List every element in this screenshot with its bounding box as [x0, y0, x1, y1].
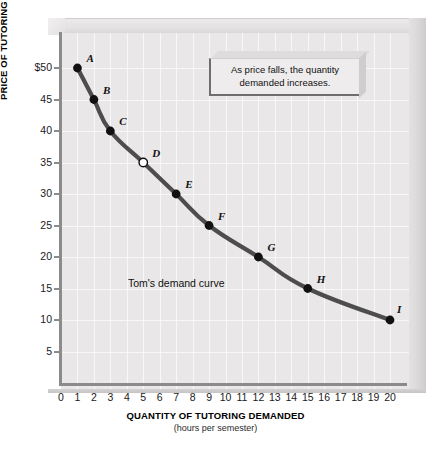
y-axis-title-sub: (dollars per hour): [0, 0, 9, 1]
y-tick-label: 45: [12, 93, 52, 105]
y-tick-mark: [54, 351, 59, 353]
y-tick-label: 20: [12, 250, 52, 262]
frame-top-bevel: [48, 18, 426, 34]
y-tick-mark: [54, 225, 59, 227]
y-tick-label: 35: [12, 156, 52, 168]
y-tick-label: 5: [12, 345, 52, 357]
frame-right-bevel: [409, 18, 426, 393]
gridline-vertical: [390, 33, 391, 389]
y-tick-mark: [54, 99, 59, 101]
y-tick-mark: [54, 288, 59, 290]
gridline-horizontal: [61, 320, 409, 321]
point-label-a: A: [86, 52, 93, 64]
gridline-vertical: [160, 33, 161, 389]
y-tick-mark: [54, 67, 59, 69]
gridline-vertical: [193, 33, 194, 389]
point-label-h: H: [317, 273, 326, 285]
callout-top-bevel: [212, 51, 370, 58]
point-label-b: B: [103, 84, 110, 96]
y-tick-mark: [54, 130, 59, 132]
y-tick-mark: [54, 193, 59, 195]
x-axis-title: QUANTITY OF TUTORING DEMANDED: [0, 410, 431, 421]
frame-top-edge: [48, 18, 426, 19]
y-tick-mark: [54, 319, 59, 321]
point-label-g: G: [267, 241, 275, 253]
gridline-horizontal: [61, 163, 409, 164]
y-tick-label: $50: [12, 61, 52, 73]
y-tick-label: 40: [12, 124, 52, 136]
gridline-vertical: [374, 33, 375, 389]
point-label-d: D: [152, 147, 160, 159]
y-tick-label: 15: [12, 282, 52, 294]
gridline-vertical: [176, 33, 177, 389]
gridline-horizontal: [61, 194, 409, 195]
gridline-horizontal: [61, 257, 409, 258]
gridline-horizontal: [61, 226, 409, 227]
gridline-vertical: [94, 33, 95, 389]
y-axis-line: [59, 32, 62, 386]
callout-line-1: As price falls, the quantity: [231, 64, 339, 75]
y-tick-mark: [54, 162, 59, 164]
callout-text: As price falls, the quantity demanded in…: [225, 64, 345, 89]
y-tick-label: 30: [12, 187, 52, 199]
gridline-vertical: [77, 33, 78, 389]
y-axis-title-main: PRICE OF TUTORING: [0, 1, 9, 100]
gridline-horizontal: [61, 100, 409, 101]
gridline-vertical: [110, 33, 111, 389]
x-axis-line: [59, 383, 407, 386]
y-tick-label: 25: [12, 219, 52, 231]
callout-box: As price falls, the quantity demanded in…: [209, 58, 359, 96]
gridline-horizontal: [61, 352, 409, 353]
gridline-vertical: [143, 33, 144, 389]
y-tick-label: 10: [12, 313, 52, 325]
callout-right-bevel: [359, 52, 366, 98]
y-tick-mark: [54, 256, 59, 258]
curve-name-label: Tom's demand curve: [128, 277, 225, 289]
gridline-horizontal: [61, 289, 409, 290]
gridline-vertical: [127, 33, 128, 389]
x-tick-label: 20: [380, 391, 400, 403]
point-label-f: F: [218, 210, 225, 222]
y-axis-title: PRICE OF TUTORING (dollars per hour): [0, 0, 9, 100]
point-label-e: E: [185, 178, 192, 190]
callout-line-2: demanded increases.: [240, 77, 331, 88]
point-label-c: C: [119, 115, 126, 127]
x-axis-subtitle: (hours per semester): [0, 423, 431, 433]
gridline-horizontal: [61, 131, 409, 132]
demand-curve-figure: $5045403530252015105 0123456789101112131…: [0, 0, 431, 455]
callout-face: As price falls, the quantity demanded in…: [209, 58, 359, 96]
point-label-i: I: [397, 303, 401, 315]
